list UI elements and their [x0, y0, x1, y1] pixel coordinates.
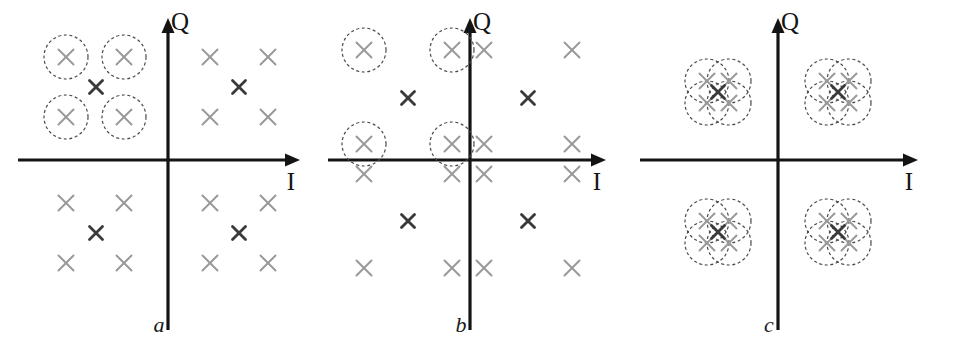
constellation-point-light — [117, 50, 132, 65]
constellation-cluster — [805, 59, 871, 125]
constellation-point-light — [357, 261, 372, 276]
constellation-point-light — [357, 167, 372, 182]
constellation-point-dark — [402, 92, 415, 105]
constellation-point-dark — [712, 226, 725, 239]
constellation-point-light — [357, 43, 372, 58]
constellation-point-light — [445, 167, 460, 182]
i-axis-arrowhead — [285, 154, 300, 167]
constellation-point-light — [203, 256, 218, 271]
axes — [328, 18, 606, 330]
constellation-point-dark — [832, 86, 845, 99]
constellation-panel-a: IQa — [0, 0, 318, 353]
constellation-cluster — [685, 199, 751, 265]
constellation-point-light — [261, 256, 276, 271]
constellation-point-light — [565, 167, 580, 182]
i-axis-label: I — [287, 168, 295, 195]
q-axis-label: Q — [171, 8, 189, 35]
constellation-point-light — [445, 43, 460, 58]
constellation-point-light — [59, 110, 74, 125]
constellation-point-light — [203, 196, 218, 211]
i-axis-label: I — [905, 168, 913, 195]
constellation-cluster — [805, 199, 871, 265]
constellation-point-dark — [90, 81, 103, 94]
constellation-point-light — [445, 137, 460, 152]
constellation-point-dark — [90, 227, 103, 240]
constellation-point-light — [477, 261, 492, 276]
panel-caption-a: a — [154, 312, 165, 337]
constellation-panel-c: IQc — [636, 0, 954, 353]
constellation-point-dark — [522, 92, 535, 105]
panel-caption-c: c — [764, 312, 774, 337]
constellation-point-dark — [233, 227, 246, 240]
constellation-point-light — [203, 110, 218, 125]
constellation-point-light — [261, 50, 276, 65]
constellation-point-light — [117, 110, 132, 125]
constellation-point-dark — [712, 86, 725, 99]
constellation-point-light — [477, 167, 492, 182]
constellation-point-dark — [402, 215, 415, 228]
constellation-point-light — [477, 137, 492, 152]
constellation-point-light — [261, 196, 276, 211]
axes — [640, 18, 918, 330]
constellation-point-light — [59, 256, 74, 271]
constellation-point-light — [477, 43, 492, 58]
constellation-point-dark — [233, 81, 246, 94]
constellation-figure: IQaIQbIQc — [0, 0, 954, 353]
constellation-point-light — [565, 261, 580, 276]
constellation-point-light — [565, 137, 580, 152]
constellation-point-light — [59, 196, 74, 211]
i-axis-arrowhead — [903, 154, 918, 167]
i-axis-arrowhead — [591, 154, 606, 167]
constellation-point-light — [565, 43, 580, 58]
constellation-point-light — [117, 256, 132, 271]
constellation-point-dark — [832, 226, 845, 239]
constellation-panel-b: IQb — [318, 0, 636, 353]
constellation-cluster — [685, 59, 751, 125]
q-axis-label: Q — [781, 8, 799, 35]
constellation-point-light — [203, 50, 218, 65]
axes — [18, 18, 300, 330]
constellation-point-dark — [522, 215, 535, 228]
constellation-point-light — [59, 50, 74, 65]
i-axis-label: I — [593, 168, 601, 195]
constellation-point-light — [117, 196, 132, 211]
constellation-point-light — [445, 261, 460, 276]
q-axis-label: Q — [473, 8, 491, 35]
constellation-point-light — [261, 110, 276, 125]
constellation-point-light — [357, 137, 372, 152]
panel-caption-b: b — [456, 312, 467, 337]
